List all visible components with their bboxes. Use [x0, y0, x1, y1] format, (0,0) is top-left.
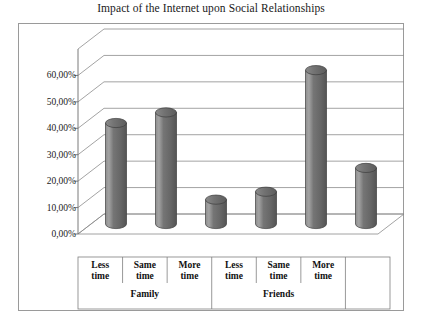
chart-container: Impact of the Internet upon Social Relat… [0, 0, 422, 329]
chart-category-label: Lesstime [212, 260, 257, 282]
chart-category-label: Lesstime [78, 260, 123, 282]
chart-category-label: Sametime [123, 260, 168, 282]
chart-category-label: Moretime [167, 260, 212, 282]
chart-group-label: Friends [212, 289, 346, 299]
chart-group-label: Family [78, 289, 212, 299]
chart-title: Impact of the Internet upon Social Relat… [0, 2, 422, 14]
chart-category-label: Moretime [301, 260, 346, 282]
chart-category-labels: LesstimeSametimeMoretimeLesstimeSametime… [18, 23, 404, 311]
chart-category-label: Sametime [256, 260, 301, 282]
